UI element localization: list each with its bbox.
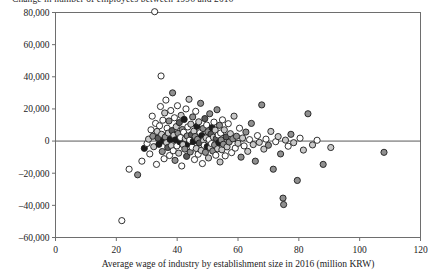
y-tick-label: –60,000 [18,233,50,243]
scatter-point [207,111,213,117]
x-tick-label: 80 [294,245,304,255]
scatter-point [250,142,256,148]
scatter-point [305,111,311,117]
scatter-point [171,115,177,121]
scatter-point [186,96,192,102]
y-tick-label: 40,000 [23,72,49,82]
scatter-point [282,137,288,143]
scatter-point [126,166,132,172]
y-tick-label: 20,000 [23,104,49,114]
scatter-point [300,147,306,153]
scatter-point [139,158,145,164]
scatter-point [252,158,258,164]
scatter-point [219,117,225,123]
scatter-point [135,172,141,178]
scatter-point [158,73,164,79]
scatter-point [183,106,189,112]
y-tick-label: 60,000 [23,40,49,50]
x-axis-title: Average wage of industry by establishmen… [102,259,375,270]
scatter-point [217,159,223,165]
scatter-point [294,177,300,183]
scatter-point [225,121,231,127]
scatter-point [181,116,187,122]
scatter-point [222,153,228,159]
scatter-point [174,103,180,109]
scatter-point [231,113,237,119]
scatter-point [265,142,271,148]
y-tick-label: –40,000 [18,201,50,211]
x-tick-labels: 020406080100120 [53,245,428,255]
scatter-point [152,9,158,15]
scatter-point [157,103,163,109]
scatter-point [193,108,199,114]
scatter-point [213,152,219,158]
y-tick-label: –20,000 [18,169,50,179]
scatter-point [320,161,326,167]
x-tick-label: 60 [233,245,243,255]
y-tick-label: 0 [45,136,50,146]
scatter-point [233,133,239,139]
plot-area: –60,000–40,000–20,000020,00040,00060,000… [0,0,434,277]
scatter-point [170,90,176,96]
scatter-point [149,113,155,119]
scatter-point [297,135,303,141]
scatter-point [239,135,245,141]
scatter-point [202,149,208,155]
scatter-point [277,151,283,157]
scatter-point [156,123,162,129]
x-tick-label: 0 [53,245,58,255]
scatter-point [281,201,287,207]
scatter-point [188,121,194,127]
scatter-point [381,149,387,155]
scatter-point [119,218,125,224]
scatter-point [214,107,220,113]
scatter-point [147,151,153,157]
scatter-point [176,150,182,156]
x-tick-label: 120 [413,245,428,255]
scatter-point [254,133,260,139]
scatter-point [270,166,276,172]
scatter-point [245,148,251,154]
scatter-points [119,9,387,224]
scatter-point [162,110,168,116]
scatter-point [205,155,211,161]
scatter-point [259,102,265,108]
scatter-point [221,127,227,133]
scatter-point [202,115,208,121]
scatter-point [236,125,242,131]
x-tick-label: 100 [353,245,368,255]
scatter-point [268,128,274,134]
scatter-point [280,195,286,201]
x-tick-label: 40 [172,245,182,255]
scatter-point [199,160,205,166]
scatter-point [291,140,297,146]
scatter-point [172,157,178,163]
scatter-point [285,143,291,149]
y-tick-labels: –60,000–40,000–20,000020,00040,00060,000… [18,8,50,243]
scatter-point [179,163,185,169]
scatter-point [288,131,294,137]
scatter-point [256,139,262,145]
scatter-point [238,154,244,160]
scatter-point [196,119,202,125]
scatter-point [190,114,196,120]
scatter-point [168,107,174,113]
scatter-point [163,97,169,103]
axes-frame [56,13,421,238]
scatter-point [275,133,281,139]
x-tick-label: 20 [112,245,122,255]
scatter-point [263,136,269,142]
scatter-point [197,100,203,106]
scatter-point [159,148,165,154]
x-axis-title-text: Average wage of industry by establishmen… [102,259,375,270]
scatter-point [235,140,241,146]
tick-marks [52,13,421,242]
scatter-point [153,161,159,167]
scatter-chart-figure: Change in number of employees between 19… [0,0,434,277]
scatter-point [328,144,334,150]
scatter-point [148,127,154,133]
y-tick-label: 80,000 [23,8,49,18]
scatter-point [314,137,320,143]
scatter-point [241,143,247,149]
scatter-point [248,120,254,126]
